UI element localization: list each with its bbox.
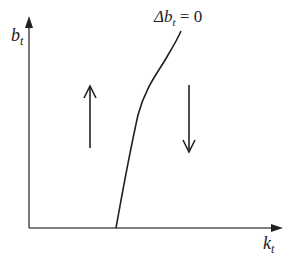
- delta-b-zero-curve: [116, 31, 181, 228]
- phase-diagram: bt kt Δbt = 0: [0, 0, 297, 263]
- y-axis-arrowhead-icon: [25, 16, 33, 28]
- x-axis-arrowhead-icon: [271, 224, 283, 232]
- y-axis-label: bt: [11, 25, 24, 48]
- x-axis-label: kt: [263, 233, 275, 256]
- down-arrow-icon: [183, 85, 195, 152]
- curve-label: Δbt = 0: [153, 7, 202, 28]
- up-arrow-icon: [84, 86, 96, 148]
